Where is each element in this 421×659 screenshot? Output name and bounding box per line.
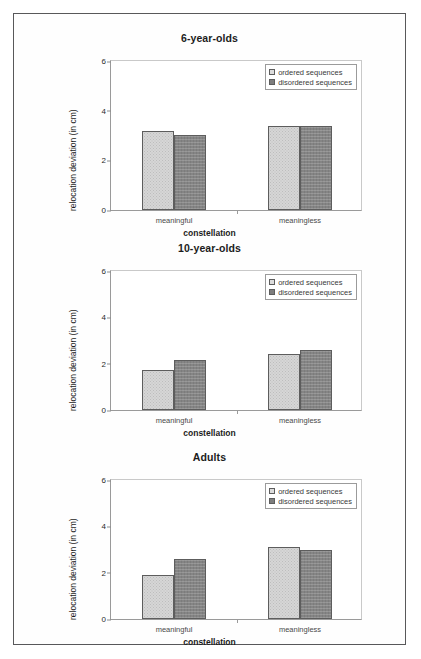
x-axis-tick-meaningless: meaningless — [279, 416, 321, 425]
legend-swatch-icon — [269, 79, 275, 85]
plot-inner: 0246meaningfulmeaninglessordered sequenc… — [111, 480, 361, 619]
x-axis-separator — [237, 619, 238, 623]
chart-panel-adults: Adults relocation deviation (in cm) 0246… — [14, 434, 405, 644]
legend: ordered sequencesdisordered sequences — [265, 274, 357, 300]
plot-area: 0246meaningfulmeaninglessordered sequenc… — [110, 479, 362, 620]
chart-panel-6-year-olds: 6-year-olds relocation deviation (in cm)… — [14, 14, 405, 224]
legend-item-disordered: disordered sequences — [269, 287, 352, 297]
legend-label: disordered sequences — [278, 497, 352, 506]
x-axis-tick-meaningful: meaningful — [156, 625, 193, 634]
legend-item-ordered: ordered sequences — [269, 67, 352, 77]
x-axis-label: constellation — [14, 637, 405, 647]
plot-area: 0246meaningfulmeaninglessordered sequenc… — [110, 60, 362, 211]
x-axis-separator — [237, 410, 238, 414]
bar-meaningful-ordered — [142, 575, 174, 619]
legend-label: ordered sequences — [278, 68, 342, 77]
legend: ordered sequencesdisordered sequences — [265, 483, 357, 509]
legend: ordered sequencesdisordered sequences — [265, 64, 357, 90]
bar-meaningful-ordered — [142, 370, 174, 410]
bar-meaningless-ordered — [268, 126, 300, 210]
y-axis-tick: 2 — [102, 359, 111, 368]
bar-meaningless-ordered — [268, 547, 300, 619]
legend-label: disordered sequences — [278, 78, 352, 87]
y-axis-tick: 2 — [102, 568, 111, 577]
y-axis-label: relocation deviation (in cm) — [68, 309, 78, 411]
chart-title: 6-year-olds — [14, 32, 405, 44]
chart-panel-10-year-olds: 10-year-olds relocation deviation (in cm… — [14, 224, 405, 434]
plot-area: 0246meaningfulmeaninglessordered sequenc… — [110, 270, 362, 411]
y-axis-tick: 0 — [102, 615, 111, 624]
plot-inner: 0246meaningfulmeaninglessordered sequenc… — [111, 271, 361, 410]
legend-item-ordered: ordered sequences — [269, 486, 352, 496]
y-axis-tick: 6 — [102, 57, 111, 66]
legend-swatch-icon — [269, 279, 275, 285]
bar-meaningful-disordered — [174, 360, 206, 410]
legend-label: disordered sequences — [278, 288, 352, 297]
y-axis-tick: 6 — [102, 476, 111, 485]
y-axis-tick: 4 — [102, 313, 111, 322]
bar-meaningless-disordered — [300, 126, 332, 210]
legend-item-ordered: ordered sequences — [269, 277, 352, 287]
y-axis-tick: 0 — [102, 206, 111, 215]
chart-title: Adults — [14, 451, 405, 463]
figure-frame: 6-year-olds relocation deviation (in cm)… — [13, 13, 406, 645]
legend-swatch-icon — [269, 498, 275, 504]
y-axis-tick: 0 — [102, 406, 111, 415]
y-axis-label: relocation deviation (in cm) — [68, 518, 78, 620]
legend-item-disordered: disordered sequences — [269, 77, 352, 87]
x-axis-tick-meaningless: meaningless — [279, 625, 321, 634]
plot-inner: 0246meaningfulmeaninglessordered sequenc… — [111, 61, 361, 210]
bar-meaningless-disordered — [300, 350, 332, 410]
y-axis-tick: 4 — [102, 522, 111, 531]
bar-meaningless-ordered — [268, 354, 300, 410]
bar-meaningful-ordered — [142, 131, 174, 210]
chart-panels: 6-year-olds relocation deviation (in cm)… — [14, 14, 405, 644]
legend-label: ordered sequences — [278, 487, 342, 496]
legend-swatch-icon — [269, 488, 275, 494]
y-axis-tick: 4 — [102, 106, 111, 115]
x-axis-separator — [237, 210, 238, 214]
y-axis-tick: 2 — [102, 156, 111, 165]
bar-meaningful-disordered — [174, 559, 206, 619]
legend-item-disordered: disordered sequences — [269, 496, 352, 506]
legend-swatch-icon — [269, 69, 275, 75]
legend-label: ordered sequences — [278, 278, 342, 287]
legend-swatch-icon — [269, 289, 275, 295]
chart-title: 10-year-olds — [14, 242, 405, 254]
x-axis-tick-meaningful: meaningful — [156, 416, 193, 425]
y-axis-tick: 6 — [102, 267, 111, 276]
bar-meaningful-disordered — [174, 135, 206, 210]
y-axis-label: relocation deviation (in cm) — [68, 109, 78, 211]
bar-meaningless-disordered — [300, 550, 332, 619]
